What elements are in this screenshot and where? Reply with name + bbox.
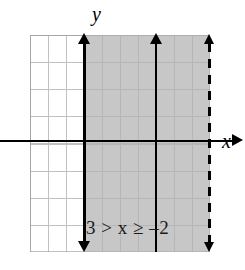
- coordinate-plane: 3 > x ≥ –2: [30, 35, 210, 252]
- x-axis-line: [0, 140, 236, 142]
- boundary-line-solid-x-minus-2: [83, 43, 86, 244]
- x-axis-arrowhead-icon: [232, 134, 243, 146]
- boundary-right-down-arrowhead-icon: [204, 242, 214, 252]
- boundary-right-up-arrowhead-icon: [204, 34, 214, 44]
- boundary-line-dashed-x-3: [208, 43, 211, 244]
- inequality-annotation: 3 > x ≥ –2: [86, 218, 169, 237]
- inequality-graph-figure: 3 > x ≥ –2 y x: [0, 0, 245, 270]
- boundary-left-down-arrowhead-icon: [78, 241, 90, 252]
- x-axis-label: x: [222, 131, 231, 151]
- y-axis-arrowhead-icon: [150, 33, 162, 44]
- boundary-left-up-arrowhead-icon: [78, 33, 90, 44]
- y-axis-label: y: [92, 4, 101, 24]
